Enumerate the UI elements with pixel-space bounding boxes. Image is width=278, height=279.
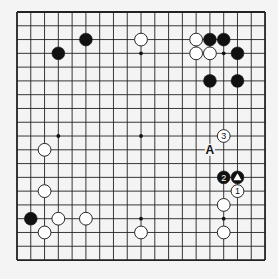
black-stone [204,75,217,88]
black-stone [231,47,244,60]
star-point [222,51,226,55]
white-stone [190,47,203,60]
star-point [139,134,143,138]
white-stone [217,226,230,239]
white-stone [38,185,51,198]
star-point [222,217,226,221]
point-label-A: A [206,143,215,157]
white-stone [38,143,51,156]
white-stone [52,212,65,225]
black-stone [231,75,244,88]
go-board: A321 [0,0,278,279]
star-point [139,51,143,55]
white-stone [80,212,93,225]
black-stone [80,33,93,46]
black-stone [217,33,230,46]
white-stone [38,226,51,239]
white-stone [190,33,203,46]
white-stone [217,199,230,212]
white-stone [135,33,148,46]
move-number-2: 2 [221,173,226,183]
star-point [139,217,143,221]
white-stone [204,47,217,60]
star-point [56,134,60,138]
black-stone [204,33,217,46]
move-number-3: 3 [221,131,226,141]
move-number-1: 1 [235,186,240,196]
white-stone [135,226,148,239]
black-stone [52,47,65,60]
black-stone [24,212,37,225]
